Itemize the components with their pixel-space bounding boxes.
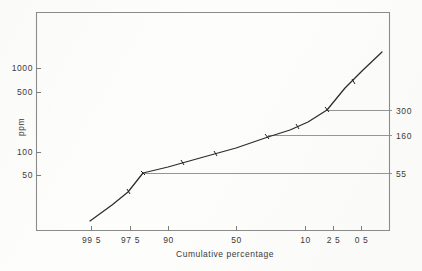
x-tick-label-90: 90: [163, 235, 174, 245]
chart-canvas: 1000 500 100 50 ppm 99 5 97 5 90 50 10 2…: [0, 0, 422, 271]
data-curve-group: [90, 52, 382, 221]
y-tick-label-1000: 1000: [12, 63, 33, 73]
y-tick-label-50: 50: [22, 170, 33, 180]
probability-plot-figure: 1000 500 100 50 ppm 99 5 97 5 90 50 10 2…: [0, 0, 422, 271]
x-tick-label-99-5: 99 5: [82, 235, 101, 245]
curve-segment-middle: [143, 137, 268, 173]
curve-segment-top: [327, 52, 382, 110]
threshold-label-55: 55: [396, 169, 407, 179]
threshold-label-160: 160: [396, 131, 412, 141]
plot-frame: [36, 12, 390, 231]
curve-segment-lower: [90, 173, 143, 221]
x-tick-label-50: 50: [231, 235, 242, 245]
y-tick-label-500: 500: [17, 87, 33, 97]
x-axis-title: Cumulative percentage: [176, 249, 274, 259]
x-tick-label-10: 10: [300, 235, 311, 245]
y-axis-title: ppm: [16, 118, 26, 136]
data-point-markers: [127, 79, 355, 194]
x-tick-label-97-5: 97 5: [121, 235, 140, 245]
x-tick-label-2-5: 2 5: [327, 235, 341, 245]
x-tick-label-0-5: 0 5: [355, 235, 369, 245]
threshold-label-300: 300: [396, 106, 412, 116]
threshold-leader-lines: [144, 111, 392, 174]
curve-segment-upper-transition: [268, 110, 327, 137]
y-tick-label-100: 100: [17, 147, 33, 157]
